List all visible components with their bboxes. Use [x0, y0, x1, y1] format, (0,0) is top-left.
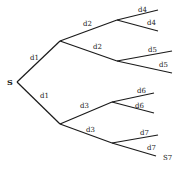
edge-label: d1: [30, 54, 39, 62]
edge-label: d7: [147, 144, 156, 152]
edge-label: d5: [159, 61, 168, 69]
edge-label: d7: [140, 129, 149, 137]
root-label: S: [7, 77, 13, 87]
edge-label: d6: [135, 102, 144, 110]
edge-d5-upper: [117, 51, 172, 61]
edge-label: d3: [80, 102, 89, 110]
edge-label: d5: [148, 46, 157, 54]
terminal-label: S7: [163, 154, 172, 162]
edge-label: d4: [147, 19, 156, 27]
edge-d6-upper: [112, 93, 154, 102]
edge-label: d1: [40, 92, 49, 100]
edge-d6-lower: [112, 102, 154, 113]
edge-lower-d1: [17, 82, 60, 124]
edge-label: d4: [138, 6, 147, 14]
edge-label: d3: [86, 126, 95, 134]
edge-label: d2: [93, 43, 102, 51]
tree-diagram: S d1 d1 d2 d2 d3 d3 d4 d4 d5 d5 d6 d6 d7…: [0, 0, 182, 172]
edge-label: d2: [83, 20, 92, 28]
edge-d2-lower: [60, 41, 117, 61]
edge-d7-upper: [112, 135, 158, 143]
edge-label: d6: [137, 87, 146, 95]
